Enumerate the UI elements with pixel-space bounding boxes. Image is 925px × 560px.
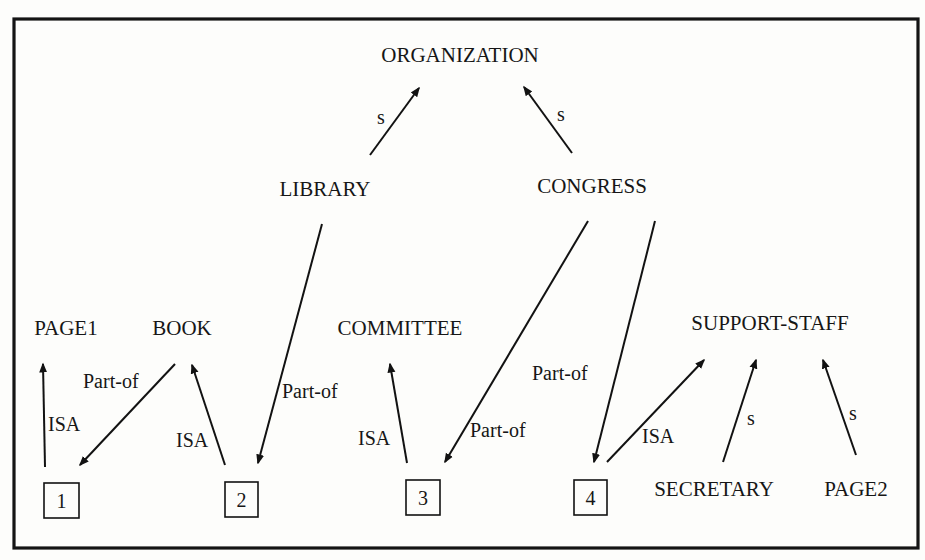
edge-page2-support-staff: s [823,360,857,455]
node-committee: COMMITTEE [338,316,463,340]
edge-library-organization: s [370,88,419,155]
edge-label: Part-of [282,380,338,402]
edge-library-box2: Part-of [258,224,338,463]
edge-label: Part-of [470,419,526,441]
semantic-network-diagram: ssISAPart-ofISAPart-ofISAPart-ofPart-ofI… [0,0,925,560]
arrow-icon [258,224,322,463]
concept-nodes-layer: ORGANIZATION LIBRARY CONGRESS PAGE1 BOOK… [34,43,887,501]
edge-congress-box3: Part-of [445,221,588,462]
edge-label: ISA [358,427,391,449]
node-book: BOOK [152,316,212,340]
edge-label: s [557,103,565,125]
edge-book-box1: Part-of [80,364,175,465]
edge-label: s [747,407,755,429]
edge-box2-book: ISA [176,365,225,465]
instance-box1: 1 [44,483,79,518]
instance-box-number: 2 [237,489,247,511]
instance-box2: 2 [225,482,258,517]
edge-label: Part-of [83,370,139,392]
node-page1: PAGE1 [34,316,97,340]
instance-box3: 3 [406,480,440,515]
edges-layer: ssISAPart-ofISAPart-ofISAPart-ofPart-ofI… [43,87,857,467]
edge-label: ISA [642,425,675,447]
node-page2: PAGE2 [824,477,887,501]
diagram-frame [14,19,918,548]
edge-label: s [377,106,385,128]
node-library: LIBRARY [279,177,370,201]
edge-congress-organization: s [524,87,572,153]
arrow-icon [390,364,407,463]
arrow-icon [524,87,572,153]
edge-label: Part-of [532,362,588,384]
node-organization: ORGANIZATION [381,43,538,67]
edge-label: ISA [176,429,209,451]
edge-secretary-support-staff: s [723,360,756,462]
edge-box3-committee: ISA [358,364,407,463]
node-secretary: SECRETARY [654,477,774,501]
instance-box-number: 1 [57,490,67,512]
node-congress: CONGRESS [537,174,647,198]
edge-congress-box4: Part-of [532,221,655,462]
edge-box4-support-staff: ISA [607,360,704,462]
edge-box1-page1: ISA [43,364,81,467]
instance-boxes-layer: 1234 [44,480,607,518]
edge-label: s [849,402,857,424]
arrow-icon [43,364,45,467]
instance-box-number: 3 [418,487,428,509]
instance-box-number: 4 [586,487,596,509]
instance-box4: 4 [574,480,607,515]
node-support-staff: SUPPORT-STAFF [691,311,848,335]
edge-label: ISA [48,413,81,435]
